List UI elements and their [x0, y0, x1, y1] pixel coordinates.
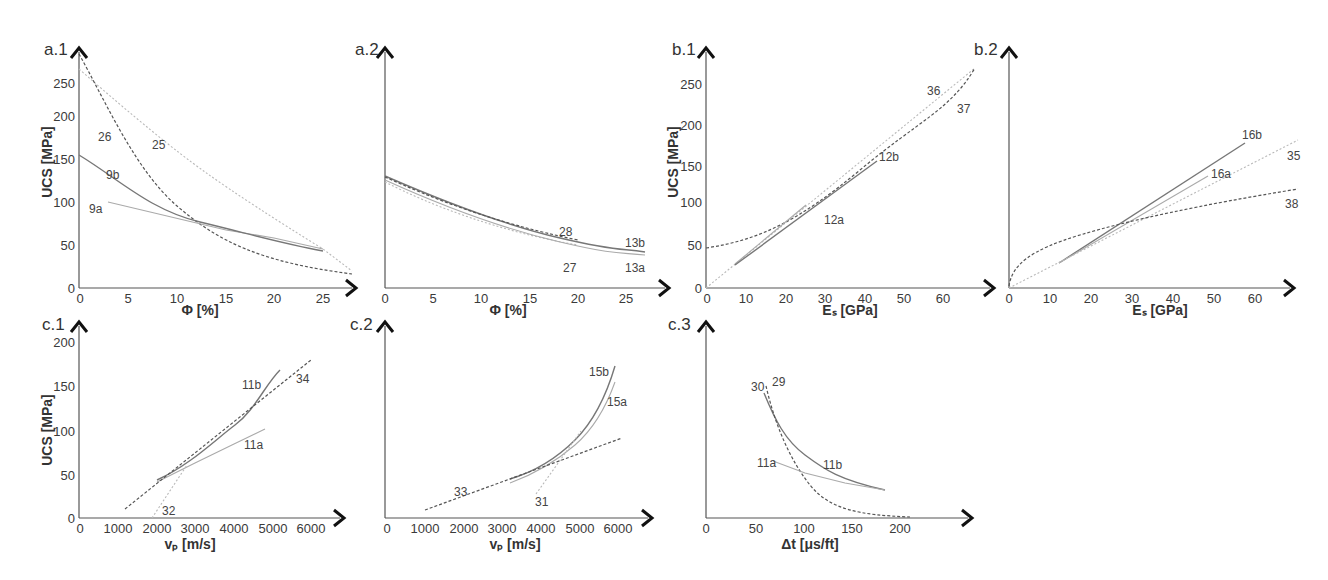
curve-31 — [536, 431, 581, 494]
curve-label: 38 — [1285, 197, 1299, 211]
y-tick: 50 — [61, 468, 75, 483]
x-ticks: 0 1000 2000 3000 4000 5000 6000 — [383, 521, 632, 536]
curve-label: 11a — [757, 456, 776, 470]
y-tick: 50 — [61, 238, 75, 253]
x-tick: 20 — [267, 291, 281, 306]
curve-label: 12a — [824, 213, 844, 227]
curve-label: 29 — [772, 375, 786, 389]
curve-label: 11b — [242, 378, 261, 392]
y-tick: 150 — [53, 379, 75, 394]
curve-30 — [764, 393, 885, 490]
figure-canvas: a.1 0 50 100 150 200 250 0 5 10 15 20 25… — [0, 0, 1328, 580]
curve-28 — [385, 177, 578, 240]
curve-label: 34 — [296, 372, 310, 386]
y-tick: 0 — [68, 511, 75, 526]
curve-13b — [385, 176, 645, 252]
panel-c2: c.2 0 1000 2000 3000 4000 5000 6000 vₚ [… — [350, 315, 652, 552]
curve-label: 13b — [625, 236, 645, 250]
y-tick: 200 — [53, 335, 75, 350]
x-tick: 10 — [474, 291, 488, 306]
curve-label: 26 — [98, 130, 112, 144]
y-tick: 250 — [680, 77, 702, 92]
x-axis-label: Φ [%] — [489, 302, 526, 318]
x-tick: 15 — [219, 291, 233, 306]
panel-label: a.2 — [355, 40, 379, 59]
x-tick: 1000 — [411, 521, 440, 536]
x-tick: 4000 — [220, 521, 249, 536]
curve-15a — [510, 382, 615, 483]
curve-label: 36 — [927, 84, 941, 98]
curve-16a — [1059, 176, 1208, 263]
curve-label: 30 — [751, 380, 765, 394]
curve-12b — [735, 161, 877, 265]
curve-label: 27 — [563, 261, 577, 275]
x-tick: 1000 — [104, 521, 133, 536]
curve-label: 28 — [559, 225, 573, 239]
x-tick: 0 — [383, 521, 390, 536]
x-tick: 0 — [76, 521, 83, 536]
curve-label: 13a — [625, 261, 645, 275]
x-axis-label: vₚ [m/s] — [164, 536, 215, 552]
y-tick: 0 — [695, 281, 702, 296]
x-tick: 4000 — [527, 521, 556, 536]
curve-12a — [735, 205, 806, 264]
panel-b2: b.2 0 10 20 30 40 50 60 Eₛ [GPa] 16b 16a… — [974, 40, 1301, 318]
y-axis-label: UCS [MPa] — [665, 126, 681, 198]
y-tick: 150 — [53, 152, 75, 167]
y-tick: 100 — [53, 424, 75, 439]
x-axis-label: Φ [%] — [181, 302, 218, 318]
x-tick: 6000 — [297, 521, 326, 536]
y-ticks: 0 50 100 150 200 — [53, 335, 75, 526]
x-tick: 200 — [889, 521, 911, 536]
curve-34 — [125, 360, 311, 509]
curve-label: 11b — [823, 458, 842, 472]
x-tick: 20 — [779, 291, 793, 306]
curve-label: 16b — [1242, 128, 1262, 142]
x-tick: 2000 — [143, 521, 172, 536]
x-ticks: 0 50 100 150 200 — [702, 521, 910, 536]
curve-29 — [766, 386, 910, 517]
curve-label: 35 — [1287, 149, 1301, 163]
y-tick: 200 — [53, 109, 75, 124]
panel-c3: c.3 0 50 100 150 200 Δt [μs/ft] 30 29 11… — [668, 315, 972, 552]
curve-label: 32 — [162, 504, 176, 518]
curve-13a — [385, 180, 645, 255]
x-axis-label: vₚ [m/s] — [489, 536, 540, 552]
x-tick: 0 — [703, 291, 710, 306]
curve-label: 15b — [589, 365, 609, 379]
panel-label: c.2 — [350, 315, 373, 334]
x-tick: 50 — [1207, 291, 1221, 306]
curve-label: 31 — [535, 495, 549, 509]
panel-b1: b.1 0 50 100 150 200 250 0 10 20 30 40 5… — [665, 40, 994, 318]
panel-label: a.1 — [44, 40, 68, 59]
y-ticks: 0 50 100 150 200 250 — [680, 77, 702, 296]
y-tick: 50 — [688, 238, 702, 253]
x-tick: 2000 — [450, 521, 479, 536]
curve-11a — [157, 429, 265, 482]
y-tick: 150 — [680, 159, 702, 174]
y-axis-label: UCS [MPa] — [39, 126, 55, 198]
x-axis-label: Eₛ [GPa] — [1132, 302, 1188, 318]
curve-label: 15a — [607, 395, 627, 409]
x-tick: 0 — [381, 291, 388, 306]
panel-label: c.1 — [42, 315, 65, 334]
x-tick: 25 — [619, 291, 633, 306]
panel-label: b.1 — [672, 40, 696, 59]
y-ticks: 0 50 100 150 200 250 — [53, 76, 75, 296]
x-tick: 5000 — [259, 521, 288, 536]
curve-38 — [1009, 189, 1298, 286]
x-tick: 20 — [571, 291, 585, 306]
x-tick: 0 — [702, 521, 709, 536]
curve-16b — [1059, 143, 1245, 263]
curve-label: 37 — [957, 102, 971, 116]
curve-11b — [157, 370, 280, 480]
x-axis-label: Eₛ [GPa] — [822, 302, 878, 318]
curve-15b — [510, 366, 615, 479]
y-tick: 100 — [53, 195, 75, 210]
curve-label: 12b — [879, 150, 899, 164]
y-tick: 250 — [53, 76, 75, 91]
y-tick: 0 — [68, 281, 75, 296]
x-tick: 25 — [316, 291, 330, 306]
panel-label: c.3 — [668, 315, 691, 334]
panel-c1: c.1 0 50 100 150 200 0 1000 2000 3000 40… — [39, 315, 344, 552]
